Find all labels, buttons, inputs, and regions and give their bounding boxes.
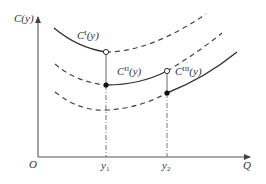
tick-y2-label: y2 (162, 160, 170, 173)
tick-y1-label: y1 (101, 160, 109, 173)
filled-point-y2 (164, 90, 169, 95)
curve-c2-dashed-left (55, 64, 106, 85)
curve-c2-arg: (y) (129, 65, 141, 77)
curve-c3-label: CIII(y) (175, 66, 202, 77)
curve-c1-dashed (106, 14, 206, 52)
x-axis-label: Q (243, 160, 251, 171)
curve-c1-arg: (y) (87, 29, 99, 41)
tick-y1-sub: 1 (106, 165, 110, 173)
origin-label-text: O (29, 158, 37, 170)
tick-y2-sub: 2 (167, 165, 171, 173)
curve-c2-label: CII(y) (117, 66, 141, 77)
curve-c3-arg: (y) (189, 65, 201, 77)
origin-label: O (29, 159, 37, 170)
y-axis-label-arg: (y) (21, 12, 33, 24)
x-axis-label-text: Q (243, 159, 251, 171)
curve-c3-dashed (55, 92, 167, 110)
open-point-y1 (103, 49, 108, 54)
curve-c1-label: CI(y) (77, 30, 99, 41)
filled-point-y1 (103, 82, 108, 87)
y-axis-label: C(y) (14, 13, 34, 24)
open-point-y2 (164, 68, 169, 73)
cost-curves-diagram (0, 0, 266, 184)
